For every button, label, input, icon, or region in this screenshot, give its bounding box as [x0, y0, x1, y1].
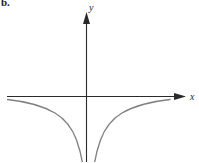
y-axis-label: y	[88, 2, 94, 13]
x-axis-label: x	[189, 91, 195, 102]
graph-plot: y x	[0, 0, 199, 162]
y-axis-arrowhead	[83, 12, 90, 24]
curve-right-branch	[95, 100, 170, 163]
x-axis-arrowhead	[174, 93, 186, 100]
figure-container: b. y x	[0, 0, 199, 162]
curve-left-branch	[8, 100, 83, 163]
